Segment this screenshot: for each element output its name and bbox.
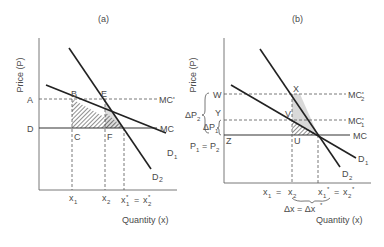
label-mc: MC — [160, 124, 174, 134]
point-U: U — [294, 136, 301, 146]
diagram-canvas: (a) Price (P) Quantity (x) A D B E C F M… — [0, 0, 384, 247]
label-mc-prime: MC' — [159, 95, 175, 105]
panel-b-ylabel: Price (P) — [188, 57, 198, 92]
svg-text:D: D — [167, 148, 174, 158]
label-dp2: ΔP 2 — [185, 110, 201, 122]
label-d2: D 2 — [342, 169, 353, 181]
svg-text:2: 2 — [293, 193, 297, 199]
label-dx: Δx = Δx * — [284, 202, 323, 214]
tick-xstar: x * 1 = x * 2 — [121, 194, 152, 207]
panel-a-xlabel: Quantity (x) — [122, 215, 169, 225]
label-mc: MC — [353, 131, 367, 141]
point-V: V — [285, 109, 291, 119]
svg-text:*: * — [126, 194, 129, 200]
panel-a-title: (a) — [98, 14, 109, 24]
point-B: B — [71, 89, 77, 99]
demand-d2 — [260, 49, 340, 167]
panel-b-xlabel: Quantity (x) — [316, 215, 363, 225]
svg-text:*: * — [320, 202, 323, 208]
label-Z: Z — [226, 136, 232, 146]
tick-xstar: x 1 * = x 2 * — [318, 186, 355, 199]
svg-text:*: * — [352, 186, 355, 192]
svg-text:2: 2 — [159, 176, 163, 183]
label-dp1: ΔP 1 — [203, 122, 219, 134]
label-mc2-prime: MC' 2 — [348, 90, 365, 102]
svg-text:=: = — [276, 187, 281, 197]
tick-x1: x 1 — [69, 193, 78, 205]
svg-text:1: 1 — [74, 199, 78, 205]
point-X: X — [293, 84, 299, 94]
svg-text:1: 1 — [196, 147, 200, 153]
svg-text:*: * — [148, 194, 151, 200]
svg-text:D: D — [342, 169, 349, 179]
svg-text:2: 2 — [148, 201, 152, 207]
panel-b-title: (b) — [292, 14, 303, 24]
label-d1: D 1 — [358, 154, 369, 166]
label-mc1-prime: MC' 1 — [348, 116, 365, 128]
point-E: E — [101, 89, 107, 99]
svg-text:1: 1 — [361, 122, 365, 128]
svg-text:1: 1 — [126, 201, 130, 207]
svg-text:Δx = Δx: Δx = Δx — [284, 204, 316, 214]
point-F: F — [107, 132, 113, 142]
label-A: A — [27, 95, 33, 105]
label-Y: Y — [215, 108, 221, 118]
label-d2: D 2 — [152, 172, 163, 183]
svg-text:ΔP: ΔP — [203, 122, 215, 132]
panel-a: (a) Price (P) Quantity (x) A D B E C F M… — [15, 14, 178, 225]
svg-text:1: 1 — [365, 160, 369, 166]
svg-text:D: D — [152, 172, 159, 182]
svg-text:D: D — [358, 154, 365, 164]
svg-text:1: 1 — [268, 193, 272, 199]
tick-x1-eq-x2: x 1 = x 2 — [263, 187, 297, 199]
svg-text:=: = — [202, 141, 207, 151]
label-d1: D 1 — [167, 148, 178, 160]
panel-b: (b) Price (P) Quantity (x) W Y Z ΔP 2 ΔP — [185, 14, 371, 225]
point-C: C — [74, 132, 81, 142]
svg-text:2: 2 — [107, 199, 111, 205]
svg-text:1: 1 — [174, 154, 178, 160]
svg-text:=: = — [134, 195, 139, 205]
svg-text:2: 2 — [361, 96, 365, 102]
svg-text:*: * — [327, 186, 330, 192]
label-W: W — [213, 90, 222, 100]
svg-text:ΔP: ΔP — [185, 110, 197, 120]
svg-text:2: 2 — [216, 147, 220, 153]
panel-a-ylabel: Price (P) — [15, 57, 25, 92]
tick-x2: x 2 — [102, 193, 111, 205]
svg-text:2: 2 — [348, 193, 352, 199]
label-p1-eq-p2: P 1 = P 2 — [190, 141, 220, 153]
svg-text:2: 2 — [197, 116, 201, 122]
svg-text:2: 2 — [349, 175, 353, 181]
svg-text:1: 1 — [323, 193, 327, 199]
svg-text:=: = — [334, 187, 339, 197]
label-D: D — [27, 124, 34, 134]
